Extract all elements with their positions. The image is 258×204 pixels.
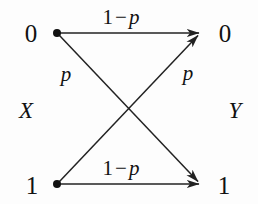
edge-label-x1-y1-prefix: 1 bbox=[103, 156, 114, 180]
edge-label-x1-y0-symbol: p bbox=[183, 61, 194, 85]
edge-label-x0-y0-symbol: p bbox=[129, 5, 140, 29]
input-node-label-1: 1 bbox=[26, 173, 39, 198]
output-variable-label: Y bbox=[229, 99, 242, 122]
input-node-label-0: 0 bbox=[25, 21, 38, 46]
edge-label-x0-y0-operator: − bbox=[113, 5, 129, 29]
edge-label-x1-y0: p bbox=[183, 63, 194, 84]
output-node-label-0: 0 bbox=[219, 21, 232, 46]
edge-label-x0-y1: p bbox=[61, 64, 72, 85]
edge-label-x1-y1: 1−p bbox=[103, 158, 140, 179]
edge-label-x0-y0: 1−p bbox=[103, 7, 140, 28]
input-variable-label: X bbox=[19, 99, 33, 122]
node-dot-input-0[interactable] bbox=[53, 29, 61, 37]
output-node-label-1: 1 bbox=[218, 173, 231, 198]
edge-label-x1-y1-symbol: p bbox=[129, 156, 140, 180]
node-dot-input-1[interactable] bbox=[53, 180, 61, 188]
edge-label-x0-y0-prefix: 1 bbox=[103, 5, 114, 29]
bsc-diagram-canvas: 0 1 0 1 X Y 1−p p p 1−p bbox=[0, 0, 258, 204]
edge-label-x1-y1-operator: − bbox=[113, 156, 129, 180]
edge-label-x0-y1-symbol: p bbox=[61, 62, 72, 86]
